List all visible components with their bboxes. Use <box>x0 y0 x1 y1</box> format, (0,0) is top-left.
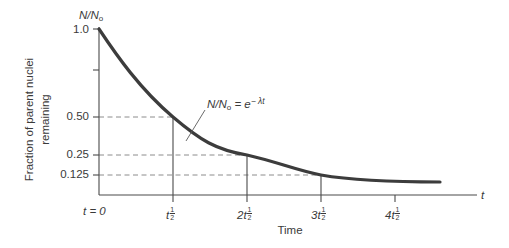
plot-canvas <box>0 0 509 248</box>
y-tick-label-0-125: 0.125 <box>33 169 89 181</box>
equation-annotation: N/No = e− λt <box>207 96 265 112</box>
decay-curve <box>99 29 440 182</box>
fraction-denominator: 2 <box>395 214 400 221</box>
x-tick-label-4t-half-fraction: 12 <box>395 206 400 222</box>
x-tick-label-4t-half-text: 4t <box>385 209 395 221</box>
y-tick-label-0-50: 0.50 <box>39 111 89 123</box>
x-axis-arrow-label: t <box>481 189 484 201</box>
fraction-numerator: 1 <box>247 206 252 214</box>
fraction-numerator: 1 <box>321 206 326 214</box>
x-tick-label-2t-half: 2t12 <box>237 206 252 222</box>
y-tick-label-1-0: 1.0 <box>39 24 89 36</box>
x-tick-label-t-half: t12 <box>166 206 175 222</box>
x-tick-label-t-half-fraction: 12 <box>170 206 175 222</box>
x-tick-label-4t-half: 4t12 <box>385 206 400 222</box>
equation-exponent: − λt <box>251 96 265 106</box>
fraction-numerator: 1 <box>395 206 400 214</box>
equation-lhs: N/N <box>207 98 227 110</box>
decay-chart-figure: Fraction of parent nuclei remaining Time… <box>0 0 509 248</box>
x-tick-label-3t-half: 3t12 <box>311 206 326 222</box>
x-axis-title: Time <box>240 224 340 236</box>
y-axis-title-line1: Fraction of parent nuclei <box>23 58 35 181</box>
y-tick-label-0-25: 0.25 <box>39 149 89 161</box>
ratio-axis-title-text: N/N <box>79 9 99 21</box>
fraction-numerator: 1 <box>170 206 175 214</box>
x-tick-label-2t-half-fraction: 12 <box>247 206 252 222</box>
ratio-axis-title-subscript: o <box>99 14 103 23</box>
equation-middle: = e <box>231 98 251 110</box>
x-tick-label-t-zero: t = 0 <box>83 206 106 218</box>
fraction-denominator: 2 <box>247 214 252 221</box>
fraction-denominator: 2 <box>170 214 175 221</box>
ratio-axis-title: N/No <box>79 9 103 23</box>
fraction-denominator: 2 <box>321 214 326 221</box>
x-tick-label-2t-half-text: 2t <box>237 209 247 221</box>
x-tick-label-3t-half-fraction: 12 <box>321 206 326 222</box>
x-tick-label-3t-half-text: 3t <box>311 209 321 221</box>
